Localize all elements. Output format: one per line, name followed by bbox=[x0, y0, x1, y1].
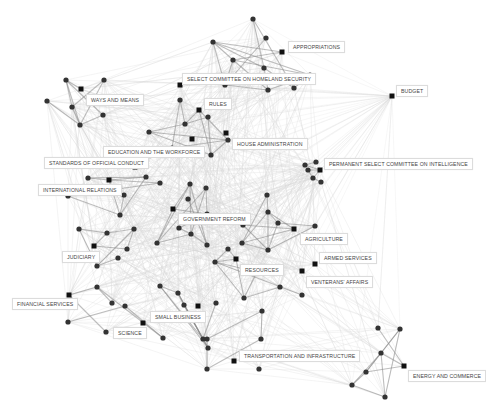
member-node bbox=[115, 255, 120, 260]
member-node bbox=[143, 174, 148, 179]
member-node bbox=[313, 159, 318, 164]
committee-label-small_business: SMALL BUSINESS bbox=[150, 311, 206, 323]
member-node bbox=[182, 121, 187, 126]
member-node bbox=[210, 39, 215, 44]
committee-node-judiciary[interactable] bbox=[92, 244, 97, 249]
member-node bbox=[256, 366, 261, 371]
member-node bbox=[363, 369, 368, 374]
committee-node-ways[interactable] bbox=[79, 87, 84, 92]
member-node bbox=[124, 246, 129, 251]
committee-label-ways: WAYS AND MEANS bbox=[86, 94, 144, 106]
member-node bbox=[203, 185, 208, 190]
member-node bbox=[275, 220, 280, 225]
committee-node-transport[interactable] bbox=[232, 359, 237, 364]
member-node bbox=[375, 325, 380, 330]
member-node bbox=[188, 231, 193, 236]
member-node bbox=[378, 350, 383, 355]
committee-node-resources[interactable] bbox=[234, 257, 239, 262]
member-node bbox=[259, 308, 264, 313]
member-node bbox=[157, 180, 162, 185]
member-node bbox=[101, 77, 106, 82]
member-node bbox=[121, 192, 126, 197]
member-node bbox=[109, 300, 114, 305]
member-node bbox=[65, 319, 70, 324]
member-node bbox=[117, 212, 122, 217]
member-node bbox=[187, 181, 192, 186]
committee-node-budget[interactable] bbox=[390, 94, 395, 99]
member-node bbox=[305, 167, 310, 172]
committee-label-financial: FINANCIAL SERVICES bbox=[12, 298, 78, 310]
committee-node-agriculture[interactable] bbox=[292, 227, 297, 232]
member-node bbox=[299, 292, 304, 297]
member-node bbox=[250, 16, 255, 21]
member-node bbox=[397, 326, 402, 331]
member-node bbox=[213, 300, 218, 305]
member-node bbox=[265, 87, 270, 92]
member-node bbox=[258, 336, 263, 341]
committee-node-financial[interactable] bbox=[67, 293, 72, 298]
member-node bbox=[318, 179, 323, 184]
committee-node-science[interactable] bbox=[141, 321, 146, 326]
member-node bbox=[103, 329, 108, 334]
committee-label-rules: RULES bbox=[204, 98, 232, 110]
committee-label-veterans: VENTERANS' AFFAIRS bbox=[306, 276, 373, 288]
committee-label-intelligence: PERMANENT SELECT COMMITTEE ON INTELLIGEN… bbox=[324, 158, 473, 170]
committee-label-gov_reform: GOVERNMENT REFORM bbox=[178, 213, 251, 225]
member-node bbox=[94, 284, 99, 289]
member-node bbox=[146, 129, 151, 134]
member-node bbox=[181, 302, 186, 307]
committee-node-international[interactable] bbox=[107, 178, 112, 183]
member-node bbox=[77, 122, 82, 127]
member-node bbox=[94, 263, 99, 268]
member-node bbox=[225, 246, 230, 251]
member-node bbox=[291, 85, 296, 90]
committee-node-veterans[interactable] bbox=[300, 269, 305, 274]
committee-label-resources: RESOURCES bbox=[240, 264, 284, 276]
committee-label-appropriations: APPROPRIATIONS bbox=[288, 41, 345, 53]
committee-label-agriculture: AGRICULTURE bbox=[300, 233, 348, 245]
member-node bbox=[264, 192, 269, 197]
member-node bbox=[177, 97, 182, 102]
member-node bbox=[241, 295, 246, 300]
member-node bbox=[104, 230, 109, 235]
member-node bbox=[157, 283, 162, 288]
committee-node-armed[interactable] bbox=[313, 262, 318, 267]
member-node bbox=[225, 137, 230, 142]
committee-node-house_admin[interactable] bbox=[224, 131, 229, 136]
committee-node-small_business[interactable] bbox=[196, 304, 201, 309]
member-node bbox=[265, 247, 270, 252]
committee-node-gov_reform[interactable] bbox=[171, 207, 176, 212]
member-node bbox=[204, 242, 209, 247]
member-node bbox=[63, 77, 68, 82]
member-node bbox=[185, 196, 190, 201]
committee-node-rules[interactable] bbox=[197, 108, 202, 113]
member-node bbox=[261, 65, 266, 70]
member-node bbox=[205, 345, 210, 350]
member-node bbox=[230, 57, 235, 62]
member-node bbox=[160, 335, 165, 340]
member-node bbox=[312, 223, 317, 228]
member-node bbox=[69, 104, 74, 109]
member-node bbox=[208, 152, 213, 157]
member-node bbox=[204, 366, 209, 371]
member-node bbox=[204, 336, 209, 341]
committee-node-energy[interactable] bbox=[402, 364, 407, 369]
member-node bbox=[302, 162, 307, 167]
member-node bbox=[263, 35, 268, 40]
committee-node-appropriations[interactable] bbox=[280, 50, 285, 55]
member-node bbox=[277, 284, 282, 289]
committee-label-judiciary: JUDICIARY bbox=[62, 251, 100, 263]
member-node bbox=[349, 382, 354, 387]
member-node bbox=[122, 303, 127, 308]
committee-label-house_admin: HOUSE ADMINISTRATION bbox=[232, 138, 308, 150]
member-node bbox=[154, 240, 159, 245]
committee-node-intelligence[interactable] bbox=[318, 168, 323, 173]
committee-label-homeland: SELECT COMMITTEE ON HOMELAND SECURITY bbox=[182, 73, 316, 85]
member-node bbox=[176, 225, 181, 230]
committee-label-international: INTERNATIONAL RELATIONS bbox=[38, 184, 122, 196]
member-node bbox=[265, 209, 270, 214]
committee-label-transport: TRANSPORTATION AND INFRASTRUCTURE bbox=[239, 350, 360, 362]
committee-label-budget: BUDGET bbox=[396, 85, 428, 97]
member-node bbox=[85, 175, 90, 180]
committee-node-education[interactable] bbox=[190, 137, 195, 142]
